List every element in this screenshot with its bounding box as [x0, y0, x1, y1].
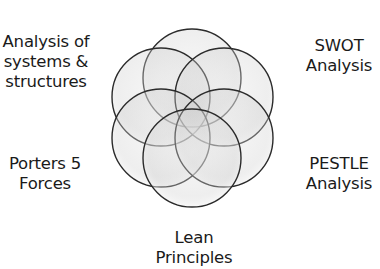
label-swot-analysis: SWOT Analysis	[303, 36, 375, 76]
label-analysis-of-systems: Analysis of systems & structures	[0, 32, 92, 92]
label-line: Analysis of	[0, 32, 92, 52]
label-line: structures	[0, 72, 92, 92]
label-line: Porters 5	[6, 154, 84, 174]
label-lean-principles: Lean Principles	[150, 228, 238, 268]
label-line: SWOT	[303, 36, 375, 56]
label-line: Analysis	[303, 56, 375, 76]
label-line: Principles	[150, 248, 238, 268]
label-line: Lean	[150, 228, 238, 248]
label-line: systems &	[0, 52, 92, 72]
label-line: Analysis	[303, 174, 375, 194]
label-porters-5-forces: Porters 5 Forces	[6, 154, 84, 194]
label-line: Forces	[6, 174, 84, 194]
label-pestle-analysis: PESTLE Analysis	[303, 154, 375, 194]
label-line: PESTLE	[303, 154, 375, 174]
circle-bottom	[143, 109, 241, 207]
